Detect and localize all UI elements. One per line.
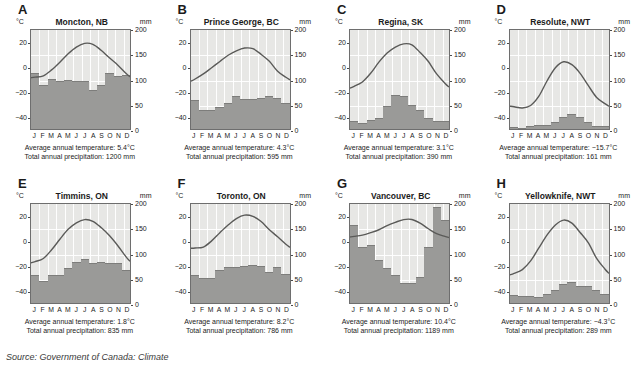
temperature-tick-mark	[507, 292, 509, 293]
month-axis-labels: JFMAMJJASOND	[190, 306, 291, 314]
plot-canvas	[190, 203, 291, 304]
month-label: M	[47, 132, 55, 140]
month-label: O	[584, 132, 592, 140]
climate-panel-h: HYellowknife, NWT°Cmm200−20−402001501005…	[479, 174, 638, 348]
climate-panel-e: ETimmins, ON°Cmm200−20−40200150100500JFM…	[0, 174, 160, 348]
month-label: M	[223, 306, 231, 314]
precipitation-tick-mark	[131, 81, 133, 82]
month-label: N	[433, 132, 441, 140]
average-temperature-label: Average annual temperature: 8.2°C	[162, 318, 318, 327]
temperature-tick-mark	[28, 217, 30, 218]
precipitation-tick-mark	[291, 30, 293, 31]
precipitation-tick-mark	[610, 229, 612, 230]
precipitation-tick-label: 150	[135, 51, 147, 58]
plot-canvas	[509, 29, 610, 130]
temperature-line	[510, 62, 609, 108]
month-label: S	[97, 306, 105, 314]
temperature-tick-mark	[347, 93, 349, 94]
precipitation-tick-mark	[610, 55, 612, 56]
temperature-tick-label: −40	[494, 288, 506, 295]
precipitation-tick-mark	[610, 280, 612, 281]
precipitation-tick-mark	[291, 255, 293, 256]
month-label: J	[30, 132, 38, 140]
month-label: S	[97, 132, 105, 140]
precipitation-tick-mark	[450, 280, 452, 281]
temperature-tick-mark	[507, 93, 509, 94]
precipitation-unit-label: mm	[299, 192, 311, 200]
temperature-tick-mark	[507, 242, 509, 243]
temperature-tick-mark	[507, 217, 509, 218]
temperature-curve	[191, 30, 290, 129]
precipitation-tick-mark	[291, 131, 293, 132]
temperature-unit-label: °C	[335, 18, 343, 26]
temperature-tick-label: −20	[175, 89, 187, 96]
month-label: J	[190, 132, 198, 140]
temperature-tick-label: −20	[15, 263, 27, 270]
precipitation-tick-mark	[610, 106, 612, 107]
precipitation-tick-label: 100	[135, 77, 147, 84]
month-label: D	[442, 306, 450, 314]
precipitation-tick-mark	[450, 131, 452, 132]
precipitation-tick-mark	[450, 229, 452, 230]
plot-area	[30, 29, 131, 130]
source-label: Source:	[6, 352, 37, 362]
month-label: J	[72, 132, 80, 140]
precipitation-tick-mark	[131, 106, 133, 107]
precipitation-tick-mark	[131, 55, 133, 56]
month-label: M	[206, 132, 214, 140]
panel-letter: F	[178, 177, 186, 190]
temperature-tick-label: 0	[502, 238, 506, 245]
precipitation-tick-mark	[450, 106, 452, 107]
month-label: J	[559, 132, 567, 140]
month-label: F	[198, 306, 206, 314]
precipitation-tick-mark	[291, 229, 293, 230]
month-label: A	[55, 306, 63, 314]
temperature-tick-label: −20	[334, 263, 346, 270]
climate-panel-f: FToronto, ON°Cmm200−20−40200150100500JFM…	[160, 174, 320, 348]
precipitation-tick-mark	[131, 131, 133, 132]
precipitation-tick-mark	[131, 204, 133, 205]
month-label: N	[274, 306, 282, 314]
temperature-unit-label: °C	[495, 18, 503, 26]
plot-canvas	[509, 203, 610, 304]
month-label: N	[114, 132, 122, 140]
month-label: J	[232, 306, 240, 314]
month-axis-labels: JFMAMJJASOND	[190, 132, 291, 140]
climate-graphs-figure: AMoncton, NB°Cmm200−20−40200150100500JFM…	[0, 0, 638, 374]
temperature-axis: 200−20−40	[319, 203, 349, 306]
precipitation-tick-label: 50	[454, 102, 462, 109]
source-text: Government of Canada: Climate	[37, 352, 169, 362]
precipitation-tick-label: 50	[135, 102, 143, 109]
temperature-curve	[31, 204, 130, 303]
month-label: M	[525, 306, 533, 314]
total-precipitation-label: Total annual precipitation: 161 mm	[481, 153, 637, 162]
month-label: A	[215, 306, 223, 314]
total-precipitation-label: Total annual precipitation: 1200 mm	[2, 153, 158, 162]
temperature-tick-label: −40	[494, 114, 506, 121]
temperature-tick-mark	[507, 267, 509, 268]
month-label: N	[593, 132, 601, 140]
temperature-curve	[510, 204, 609, 303]
precipitation-tick-label: 150	[135, 225, 147, 232]
plot-area	[349, 29, 450, 130]
plot-area	[190, 203, 291, 304]
month-label: A	[408, 306, 416, 314]
month-axis-labels: JFMAMJJASOND	[509, 306, 610, 314]
precipitation-tick-label: 0	[295, 127, 299, 134]
temperature-tick-label: −20	[334, 89, 346, 96]
month-label: J	[190, 306, 198, 314]
temperature-tick-mark	[188, 217, 190, 218]
temperature-tick-label: 20	[338, 39, 346, 46]
temperature-tick-mark	[507, 43, 509, 44]
month-label: J	[349, 306, 357, 314]
precipitation-tick-label: 0	[135, 127, 139, 134]
temperature-tick-mark	[347, 68, 349, 69]
plot-area	[509, 29, 610, 130]
month-label: J	[391, 132, 399, 140]
precipitation-tick-label: 50	[614, 276, 622, 283]
month-axis-labels: JFMAMJJASOND	[30, 132, 131, 140]
month-label: S	[416, 306, 424, 314]
temperature-unit-label: °C	[16, 192, 24, 200]
temperature-tick-mark	[347, 217, 349, 218]
temperature-tick-label: 0	[183, 64, 187, 71]
